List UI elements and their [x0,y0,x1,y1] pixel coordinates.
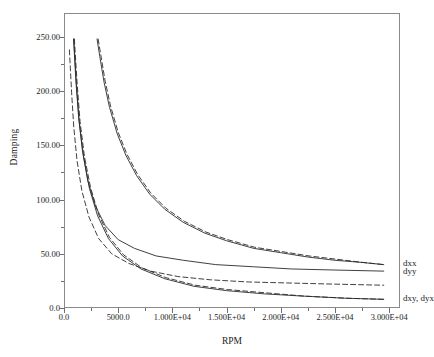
y-tick-label: 100.00 [16,195,60,205]
tick-mark [61,281,64,282]
legend-label-dyy: dyy [403,266,417,276]
tick-mark [199,308,200,311]
tick-mark [61,118,64,119]
tick-mark [59,37,64,38]
tick-mark [145,308,146,311]
x-tick-label: 2.000E+04 [262,313,299,322]
tick-mark [389,308,390,313]
y-tick-label: 150.00 [16,140,60,150]
x-tick-label: 2.500E+04 [316,313,353,322]
tick-mark [281,308,282,313]
tick-mark [308,308,309,311]
y-axis-tick-labels: 0.050.00100.00150.00200.00250.00 [8,0,60,357]
y-tick-label: 250.00 [16,32,60,42]
tick-mark [172,308,173,313]
tick-mark [61,227,64,228]
x-tick-label: 0.0 [59,313,69,322]
x-axis-title: RPM [64,336,400,346]
tick-mark [118,308,119,313]
tick-mark [59,254,64,255]
x-tick-label: 1.000E+04 [154,313,191,322]
curve-dyy-dashed [69,50,383,285]
tick-mark [227,308,228,313]
chart-curves [64,13,400,308]
x-tick-label: 3.000E+04 [371,313,408,322]
tick-mark [64,308,65,313]
tick-mark [91,308,92,311]
y-tick-label: 0.0 [16,303,60,313]
y-tick-label: 200.00 [16,86,60,96]
y-tick-label: 50.00 [16,249,60,259]
curve-dxx-dashed [98,39,384,265]
tick-mark [59,145,64,146]
tick-mark [362,308,363,311]
curve-dyy [74,39,384,271]
tick-mark [61,64,64,65]
x-tick-label: 1.500E+04 [208,313,245,322]
tick-mark [61,172,64,173]
legend-label-dxy-dyx: dxy, dyx [403,293,434,303]
x-tick-label: 5000.0 [107,313,130,322]
tick-mark [254,308,255,311]
tick-mark [59,91,64,92]
tick-mark [59,200,64,201]
tick-mark [335,308,336,313]
curve-dxx [97,39,384,265]
